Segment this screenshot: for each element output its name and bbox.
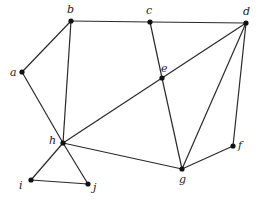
node-f: [230, 143, 235, 148]
edge-f-g: [182, 146, 233, 169]
edge-e-g: [162, 78, 182, 169]
edge-i-j: [31, 180, 88, 184]
edge-d-g: [182, 23, 246, 169]
node-j: [85, 181, 90, 186]
edge-b-h: [63, 21, 71, 143]
node-g: [179, 166, 184, 171]
node-h: [60, 140, 65, 145]
node-label-j: j: [90, 181, 97, 194]
edge-h-j: [63, 143, 88, 184]
edge-b-c: [71, 21, 150, 22]
node-e: [159, 75, 164, 80]
edge-d-f: [233, 23, 246, 146]
node-label-h: h: [49, 134, 56, 147]
edge-a-b: [22, 21, 71, 72]
edge-c-d: [150, 22, 246, 23]
node-label-f: f: [237, 139, 244, 152]
node-i: [28, 177, 33, 182]
node-d: [243, 20, 248, 25]
node-label-g: g: [179, 173, 186, 186]
edge-h-g: [63, 143, 182, 169]
edge-e-h: [63, 78, 162, 143]
graph-diagram: abcdefghij: [0, 0, 261, 203]
node-label-c: c: [146, 4, 152, 17]
edge-a-h: [22, 72, 63, 143]
node-label-a: a: [10, 66, 17, 79]
node-b: [68, 18, 73, 23]
node-label-b: b: [67, 3, 74, 16]
edge-h-i: [31, 143, 63, 180]
node-label-d: d: [243, 5, 250, 18]
node-label-e: e: [161, 62, 168, 75]
node-label-i: i: [19, 179, 23, 192]
edges-layer: [22, 21, 246, 184]
node-a: [19, 69, 24, 74]
node-c: [147, 19, 152, 24]
